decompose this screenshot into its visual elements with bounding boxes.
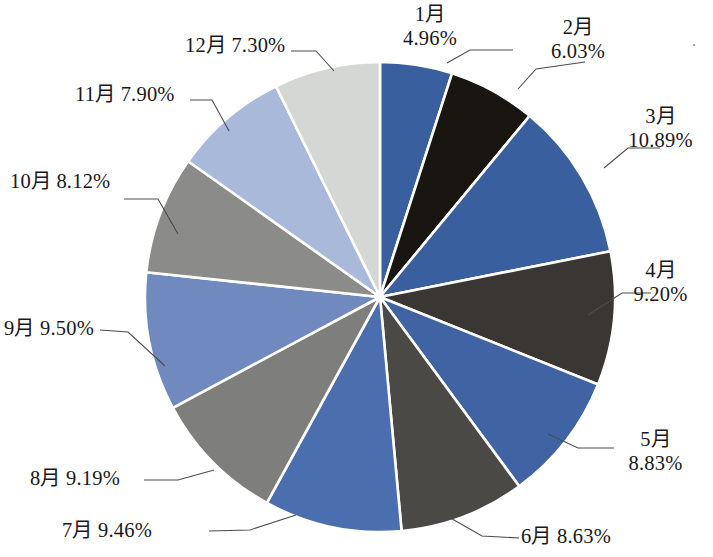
pie-label-apr-value: 9.20% bbox=[613, 282, 708, 306]
pie-label-may-value: 8.83% bbox=[608, 451, 703, 475]
pie-chart: 1月 4.96% 2月 6.03% 3月 10.89% 4月 9.20% 5月 … bbox=[0, 0, 713, 557]
pie-label-oct: 10月 8.12% bbox=[10, 169, 110, 193]
pie-label-jan: 1月 4.96% bbox=[375, 2, 485, 50]
scan-speck bbox=[693, 44, 695, 46]
pie-label-mar: 3月 10.89% bbox=[608, 104, 713, 152]
leader-line-feb bbox=[518, 62, 585, 89]
pie-label-mar-month: 3月 bbox=[608, 104, 713, 128]
pie-label-nov: 11月 7.90% bbox=[75, 82, 175, 106]
pie-label-dec: 12月 7.30% bbox=[185, 33, 285, 57]
pie-label-sep: 9月 9.50% bbox=[4, 316, 94, 340]
pie-label-jun: 6月 8.63% bbox=[521, 524, 611, 548]
pie-label-feb-value: 6.03% bbox=[528, 39, 628, 63]
pie-label-jul: 7月 9.46% bbox=[62, 518, 152, 542]
pie-label-jan-value: 4.96% bbox=[375, 26, 485, 50]
pie-label-may-month: 5月 bbox=[608, 427, 703, 451]
pie-label-may: 5月 8.83% bbox=[608, 427, 703, 475]
leader-line-jan bbox=[447, 50, 513, 63]
pie-label-jan-month: 1月 bbox=[375, 2, 485, 26]
leader-line-aug bbox=[144, 470, 214, 480]
leader-line-jul bbox=[209, 515, 296, 531]
pie-label-apr: 4月 9.20% bbox=[613, 258, 708, 306]
pie-label-apr-month: 4月 bbox=[613, 258, 708, 282]
pie-label-feb: 2月 6.03% bbox=[528, 15, 628, 63]
pie-label-feb-month: 2月 bbox=[528, 15, 628, 39]
pie-label-mar-value: 10.89% bbox=[608, 128, 713, 152]
pie-slices bbox=[145, 62, 615, 532]
pie-label-aug: 8月 9.19% bbox=[30, 466, 120, 490]
